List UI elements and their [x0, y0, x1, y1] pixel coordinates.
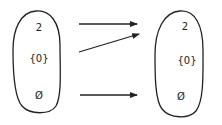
right-element-set-zero: {0}: [177, 55, 196, 66]
left-element-set-zero: {0}: [29, 53, 48, 64]
right-element-2: 2: [182, 21, 188, 32]
left-element-empty-set: Ø: [35, 90, 43, 101]
set-mapping-diagram: 2 {0} Ø 2 {0} Ø: [0, 0, 222, 125]
arrow-set0-to-2: [79, 34, 139, 52]
right-element-empty-set: Ø: [177, 91, 185, 102]
left-element-2: 2: [36, 22, 42, 33]
